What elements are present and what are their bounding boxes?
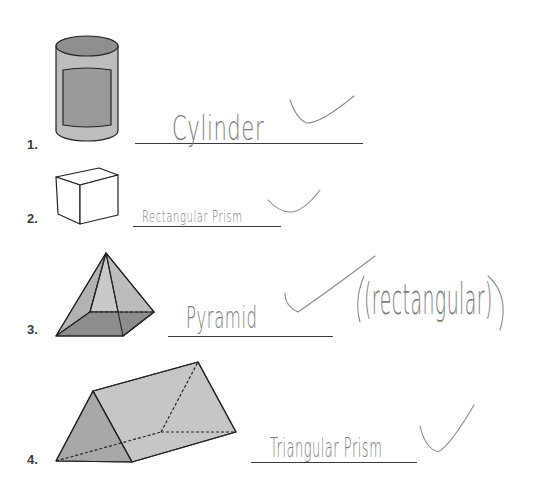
check-mark-icon <box>290 96 354 123</box>
answer-line <box>168 336 333 337</box>
answer-line <box>133 226 281 227</box>
answer-text: Pyramid <box>186 300 258 335</box>
rectangular-prism-figure <box>56 168 118 224</box>
check-mark-icon <box>268 190 320 212</box>
grading-marks <box>268 96 503 452</box>
triangular-prism-figure <box>56 362 236 462</box>
item-number: 4. <box>27 452 38 467</box>
answer-text: Triangular Prism <box>270 433 382 463</box>
item-number: 2. <box>27 211 38 226</box>
worksheet-drawings <box>0 0 537 498</box>
check-mark-icon <box>420 405 474 452</box>
pyramid-figure <box>56 253 154 336</box>
item-number: 1. <box>27 137 38 152</box>
answer-note: (rectangular) <box>364 275 493 324</box>
cylinder-figure <box>56 36 118 141</box>
item-number: 3. <box>27 322 38 337</box>
answer-text: Cylinder <box>172 108 264 148</box>
answer-text: Rectangular Prism <box>142 207 243 226</box>
